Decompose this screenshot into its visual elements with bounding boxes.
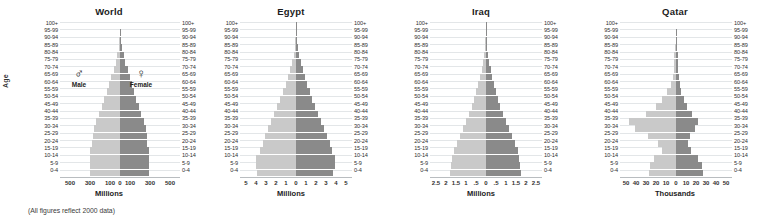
age-tick-labels-left: 100+95-9990-9485-8980-8475-7970-7465-696… xyxy=(402,22,428,177)
bar-rows xyxy=(60,22,180,177)
age-axis-label: Age xyxy=(2,74,9,88)
pyramid-row xyxy=(240,147,352,154)
female-bar xyxy=(296,88,310,95)
age-tick-label: 20-24 xyxy=(734,139,748,145)
pyramid-row xyxy=(60,22,180,29)
age-tick-label: 55-59 xyxy=(414,87,428,93)
female-bar xyxy=(676,59,678,66)
female-bar xyxy=(296,59,301,66)
female-bar xyxy=(676,74,679,81)
x-axis-unit-label: Thousands xyxy=(576,189,774,198)
age-tick-label: 65-69 xyxy=(182,72,196,78)
pyramid-row xyxy=(620,74,732,81)
age-tick-label: 15-19 xyxy=(182,146,196,152)
male-bar xyxy=(260,147,296,154)
pyramid-row xyxy=(60,52,180,59)
male-bar xyxy=(476,88,486,95)
panel-title: Qatar xyxy=(576,6,774,17)
age-tick-label: 90-94 xyxy=(414,35,428,41)
age-tick-label: 70-74 xyxy=(734,65,748,71)
pyramid-row xyxy=(430,140,542,147)
pyramid-row xyxy=(430,155,542,162)
age-tick-label: 10-14 xyxy=(414,153,428,159)
age-tick-label: 85-89 xyxy=(354,43,368,49)
pyramid-row xyxy=(240,170,352,177)
age-tick-label: 65-69 xyxy=(224,72,238,78)
female-bar xyxy=(120,88,134,95)
age-tick-label: 100+ xyxy=(606,21,618,27)
pyramid-row xyxy=(60,125,180,132)
female-bar xyxy=(486,96,498,103)
female-bar xyxy=(296,103,315,110)
bar-rows xyxy=(430,22,542,177)
age-tick-label: 45-49 xyxy=(734,102,748,108)
x-tick-label: 1.5 xyxy=(512,180,520,186)
male-bar xyxy=(263,140,297,147)
pyramid-row xyxy=(430,29,542,36)
age-tick-label: 90-94 xyxy=(182,35,196,41)
age-tick-label: 70-74 xyxy=(354,65,368,71)
female-bar xyxy=(296,118,321,125)
female-bar xyxy=(676,52,678,59)
female-bar xyxy=(296,133,327,140)
age-tick-label: 30-34 xyxy=(354,124,368,130)
female-bar xyxy=(486,52,488,59)
female-bar xyxy=(486,81,494,88)
male-bar xyxy=(90,147,120,154)
male-bar xyxy=(463,125,486,132)
x-tick-label: 1 xyxy=(504,180,507,186)
age-tick-label: 10-14 xyxy=(734,153,748,159)
age-tick-label: 90-94 xyxy=(544,35,558,41)
age-tick-label: 30-34 xyxy=(182,124,196,130)
x-tick-label: 2.5 xyxy=(532,180,540,186)
pyramid-row xyxy=(240,133,352,140)
male-bar xyxy=(474,96,486,103)
x-tick-label: 20 xyxy=(693,180,700,186)
female-bar xyxy=(676,118,698,125)
male-bar xyxy=(650,162,676,169)
male-bar xyxy=(111,74,120,81)
pyramid-row xyxy=(620,96,732,103)
population-pyramid-figure: Age World100+95-9990-9485-8980-8475-7970… xyxy=(0,0,774,223)
pyramid-row xyxy=(240,140,352,147)
age-tick-label: 5-9 xyxy=(230,161,238,167)
x-tick-label: 40 xyxy=(713,180,720,186)
male-bar xyxy=(107,88,120,95)
age-tick-label: 5-9 xyxy=(182,161,190,167)
age-tick-label: 95-99 xyxy=(182,28,196,34)
pyramid-row xyxy=(430,81,542,88)
age-tick-label: 0-4 xyxy=(50,168,58,174)
age-tick-label: 30-34 xyxy=(224,124,238,130)
age-tick-label: 55-59 xyxy=(734,87,748,93)
age-tick-label: 15-19 xyxy=(44,146,58,152)
venus-symbol-icon: ♀ xyxy=(124,68,158,80)
age-tick-label: 25-29 xyxy=(414,131,428,137)
age-tick-label: 80-84 xyxy=(734,50,748,56)
pyramid-row xyxy=(430,66,542,73)
x-axis-unit-label: Millions xyxy=(14,189,204,198)
male-bar xyxy=(452,155,486,162)
male-bar xyxy=(257,170,296,177)
pyramid-row xyxy=(620,29,732,36)
age-tick-label: 40-44 xyxy=(354,109,368,115)
plot-area xyxy=(430,22,542,177)
age-tick-label: 45-49 xyxy=(544,102,558,108)
age-tick-label: 35-39 xyxy=(604,116,618,122)
age-tick-label: 35-39 xyxy=(44,116,58,122)
x-tick-label: 0 xyxy=(294,180,297,186)
age-tick-label: 95-99 xyxy=(414,28,428,34)
male-bar xyxy=(265,133,296,140)
male-bar xyxy=(277,103,296,110)
age-tick-label: 5-9 xyxy=(610,161,618,167)
female-bar xyxy=(120,111,141,118)
male-bar xyxy=(268,125,296,132)
male-bar xyxy=(658,140,676,147)
male-bar xyxy=(283,88,296,95)
x-tick-label: 1 xyxy=(284,180,287,186)
age-tick-label: 100+ xyxy=(354,21,366,27)
pyramid-row xyxy=(240,52,352,59)
x-axis-unit-label: Millions xyxy=(386,189,576,198)
female-bar xyxy=(296,125,324,132)
pyramid-row xyxy=(430,74,542,81)
age-tick-label: 80-84 xyxy=(224,50,238,56)
